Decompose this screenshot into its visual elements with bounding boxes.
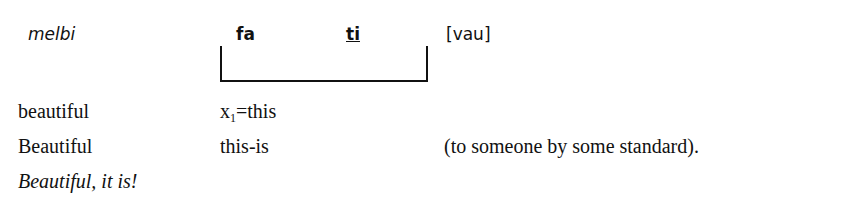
place-tag-ti: ti xyxy=(346,24,360,44)
lojban-word: melbi xyxy=(28,24,75,44)
place-gloss: x1=this xyxy=(220,100,276,126)
literal-word: Beautiful xyxy=(18,135,92,158)
variable-value: =this xyxy=(236,100,276,122)
elided-terminator: [vau] xyxy=(446,24,491,44)
free-translation: Beautiful, it is! xyxy=(18,170,137,193)
implied-places: (to someone by some standard). xyxy=(444,135,699,158)
place-tag-fa: fa xyxy=(236,24,255,44)
gloss-word: beautiful xyxy=(18,100,89,123)
variable: x xyxy=(220,100,230,122)
bracket-line xyxy=(220,46,428,82)
literal-phrase: this-is xyxy=(220,135,269,158)
